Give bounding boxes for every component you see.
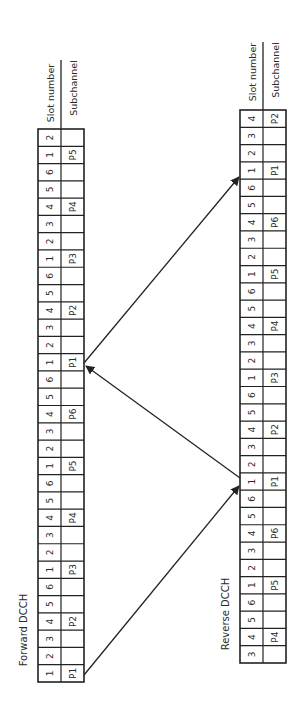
slot-number-cell: 2	[45, 135, 55, 141]
reverse-dcch-title: Reverse DCCH	[220, 578, 231, 651]
slot-number-cell: 6	[247, 496, 257, 502]
slot-number-cell: 3	[247, 133, 257, 139]
subchannel-cell: P5	[68, 149, 78, 160]
subchannel-cell: P1	[270, 165, 280, 176]
subchannel-cell: P3	[270, 372, 280, 383]
reverse-subchannel-label: Subchannel	[270, 42, 281, 98]
forward-subchannel-label: Subchannel	[68, 60, 79, 116]
slot-number-cell: 4	[247, 530, 257, 536]
slot-number-cell: 1	[247, 375, 257, 381]
slot-number-cell: 2	[247, 565, 257, 571]
slot-number-cell: 3	[247, 444, 257, 450]
slot-number-cell: 4	[45, 411, 55, 417]
slot-number-cell: 6	[247, 599, 257, 605]
subchannel-cell: P6	[68, 408, 78, 419]
slot-number-cell: 2	[247, 150, 257, 156]
slot-number-cell: 5	[247, 306, 257, 312]
slot-number-cell: 3	[247, 237, 257, 243]
slot-number-cell: 1	[247, 168, 257, 174]
subchannel-cell: P4	[270, 320, 280, 331]
subchannel-cell: P2	[68, 305, 78, 316]
slot-number-cell: 1	[247, 271, 257, 277]
arrow-forward-to-reverse-lower	[84, 486, 239, 675]
slot-number-cell: 6	[247, 288, 257, 294]
forward-dcch-table: 1P1234P2561P3234P4561P5234P6561P1234P256…	[38, 129, 84, 682]
reverse-slot-number-label: Slot number	[247, 43, 258, 101]
slot-number-cell: 5	[247, 513, 257, 519]
slot-number-cell: 6	[247, 392, 257, 398]
arrow-forward-to-reverse-upper	[84, 177, 239, 363]
slot-number-cell: 6	[45, 376, 55, 382]
subchannel-cell: P3	[68, 564, 78, 575]
slot-number-cell: 4	[247, 427, 257, 433]
subchannel-cell: P5	[270, 269, 280, 280]
slot-number-cell: 5	[45, 498, 55, 504]
slot-number-cell: 3	[45, 325, 55, 331]
slot-number-cell: 4	[247, 116, 257, 122]
slot-number-cell: 4	[247, 323, 257, 329]
slot-number-cell: 4	[45, 204, 55, 210]
slot-number-cell: 6	[45, 480, 55, 486]
slot-number-cell: 3	[45, 429, 55, 435]
dcch-slot-diagram: 1P1234P2561P3234P4561P5234P6561P1234P256…	[0, 0, 303, 704]
slot-number-cell: 2	[45, 550, 55, 556]
slot-number-cell: 1	[45, 256, 55, 262]
subchannel-cell: P6	[270, 216, 280, 227]
subchannel-cell: P5	[68, 460, 78, 471]
slot-number-cell: 3	[247, 651, 257, 657]
arrow-reverse-to-forward	[86, 366, 240, 478]
forward-dcch-title: Forward DCCH	[18, 594, 29, 667]
subchannel-cell: P6	[270, 528, 280, 539]
subchannel-cell: P4	[68, 512, 78, 523]
subchannel-cell: P5	[270, 580, 280, 591]
slot-number-cell: 1	[45, 670, 55, 676]
diagram-canvas: 1P1234P2561P3234P4561P5234P6561P1234P256…	[0, 0, 303, 704]
slot-number-cell: 2	[45, 342, 55, 348]
slot-number-cell: 3	[45, 636, 55, 642]
slot-number-cell: 2	[247, 461, 257, 467]
slot-number-cell: 3	[45, 532, 55, 538]
slot-number-cell: 6	[45, 273, 55, 279]
slot-number-cell: 5	[45, 601, 55, 607]
slot-number-cell: 4	[247, 634, 257, 640]
reverse-dcch-table: 34P4561P5234P6561P1234P2561P3234P4561P52…	[240, 110, 286, 663]
slot-number-cell: 3	[247, 548, 257, 554]
slot-number-cell: 6	[45, 169, 55, 175]
subchannel-cell: P2	[270, 424, 280, 435]
slot-number-cell: 2	[45, 446, 55, 452]
subchannel-cell: P4	[270, 631, 280, 642]
slot-number-cell: 2	[247, 358, 257, 364]
slot-number-cell: 5	[247, 410, 257, 416]
slot-number-cell: 1	[45, 152, 55, 158]
forward-slot-number-label: Slot number	[45, 64, 56, 122]
subchannel-cell: P2	[68, 616, 78, 627]
slot-number-cell: 3	[247, 340, 257, 346]
slot-number-cell: 5	[45, 290, 55, 296]
slot-number-cell: 4	[247, 219, 257, 225]
slot-number-cell: 4	[45, 618, 55, 624]
slot-number-cell: 5	[45, 394, 55, 400]
slot-number-cell: 6	[45, 584, 55, 590]
slot-number-cell: 6	[247, 185, 257, 191]
subchannel-cell: P2	[270, 113, 280, 124]
slot-number-cell: 4	[45, 515, 55, 521]
subchannel-cell: P3	[68, 253, 78, 264]
slot-number-cell: 1	[45, 359, 55, 365]
slot-number-cell: 5	[45, 187, 55, 193]
slot-number-cell: 2	[247, 254, 257, 260]
slot-number-cell: 1	[247, 582, 257, 588]
subchannel-cell: P1	[68, 668, 78, 679]
slot-number-cell: 1	[45, 567, 55, 573]
slot-number-cell: 5	[247, 202, 257, 208]
slot-number-cell: 1	[45, 463, 55, 469]
slot-number-cell: 2	[45, 238, 55, 244]
subchannel-cell: P1	[68, 357, 78, 368]
subchannel-cell: P1	[270, 476, 280, 487]
slot-number-cell: 1	[247, 479, 257, 485]
subchannel-cell: P4	[68, 201, 78, 212]
slot-number-cell: 3	[45, 221, 55, 227]
slot-number-cell: 4	[45, 307, 55, 313]
slot-number-cell: 2	[45, 653, 55, 659]
slot-number-cell: 5	[247, 617, 257, 623]
